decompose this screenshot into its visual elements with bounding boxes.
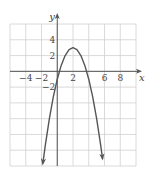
y-tick-label: 2	[50, 51, 56, 61]
x-tick-label: −4	[19, 73, 33, 83]
y-tick-label: −2	[42, 82, 55, 92]
y-tick-label: 4	[50, 35, 56, 45]
x-axis-label: x	[139, 72, 145, 83]
axes: x y	[10, 11, 145, 166]
grid-lines	[10, 24, 136, 166]
x-tick-label: 8	[117, 73, 123, 83]
x-tick-label: 2	[70, 73, 76, 83]
parabola-graph: x y −4−226842−2	[0, 0, 151, 180]
tick-labels: −4−226842−2	[19, 35, 123, 92]
y-axis-label: y	[48, 11, 55, 22]
x-tick-label: 6	[102, 73, 108, 83]
